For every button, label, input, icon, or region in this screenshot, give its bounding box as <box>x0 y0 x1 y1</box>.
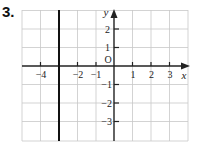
origin-label: O <box>104 54 111 65</box>
x-tick-label: −2 <box>73 69 84 80</box>
y-axis-label: y <box>103 6 109 18</box>
y-tick-label: 1 <box>105 42 110 53</box>
x-tick-label: 3 <box>168 69 173 80</box>
x-tick-label: −1 <box>91 69 102 80</box>
x-tick-label: −4 <box>36 69 47 80</box>
y-axis: 2 1 −1 −2 −3 y <box>101 6 119 141</box>
coordinate-plane: −4 −2 −1 1 2 3 x 2 1 −1 −2 −3 y O <box>0 0 198 147</box>
y-tick-label: −1 <box>101 79 112 90</box>
x-tick-label: 2 <box>149 69 154 80</box>
x-axis-label: x <box>181 69 187 81</box>
y-tick-label: −2 <box>101 98 112 109</box>
y-tick-label: −3 <box>101 116 112 127</box>
y-tick-label: 2 <box>105 24 110 35</box>
x-tick-label: 1 <box>131 69 136 80</box>
